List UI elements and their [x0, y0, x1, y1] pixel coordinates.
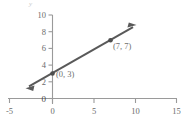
point-annotation-0-3: (0, 3)	[56, 70, 74, 79]
x-tick-label-minus5: -5	[0, 107, 20, 116]
y-tick-label-6: 6	[22, 44, 46, 53]
point-annotation-7-7: (7, 7)	[113, 42, 131, 51]
x-tick-label-5: 5	[84, 107, 104, 116]
y-tick-label-0: 0	[22, 95, 46, 104]
x-tick-label-15: 15	[167, 107, 187, 116]
y-tick-label-4: 4	[22, 61, 46, 70]
x-tick-label-0: 0	[43, 107, 63, 116]
y-axis-label: y	[29, 1, 32, 8]
point-marker-0-3	[50, 71, 55, 76]
line-graph-figure: y 10 8 6 4 2 0 -5 0 5 10 15 (0, 3) (7, 7…	[0, 0, 188, 121]
y-tick-label-8: 8	[22, 28, 46, 37]
x-tick-label-10: 10	[126, 107, 146, 116]
y-axis-ticks	[49, 15, 53, 99]
y-tick-label-10: 10	[22, 11, 46, 20]
y-tick-label-2: 2	[22, 78, 46, 87]
